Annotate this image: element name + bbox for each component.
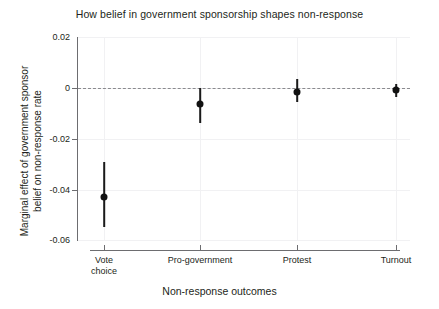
x-tick-vote-choice: [104, 245, 105, 251]
y-axis-title: Marginal effect of government sponsor be…: [18, 36, 44, 266]
chart-figure: How belief in government sponsorship sha…: [0, 0, 439, 309]
x-tick-protest: [297, 245, 298, 251]
x-tick-label-turnout: Turnout: [381, 255, 412, 266]
x-tick-label-pro-government: Pro-government: [168, 255, 233, 266]
gridline-cat-pro-government: [200, 37, 201, 240]
gridline-002: [78, 37, 410, 38]
plot-area: [78, 37, 410, 240]
x-tick-label-vote-choice: Vote choice: [91, 255, 117, 277]
y-axis-title-line2: belief on non-response rate: [32, 90, 43, 212]
x-tick-turnout: [396, 245, 397, 251]
gridline-neg004: [78, 190, 410, 191]
point-protest: [294, 89, 301, 96]
gridline-neg002: [78, 139, 410, 140]
x-tick-label-protest: Protest: [283, 255, 312, 266]
gridline-cat-protest: [297, 37, 298, 240]
point-turnout: [393, 87, 400, 94]
gridline-neg006: [78, 240, 410, 241]
gridline-cat-turnout: [396, 37, 397, 240]
zero-reference-line: [78, 88, 410, 89]
x-axis-spine: [90, 250, 400, 251]
x-axis-title: Non-response outcomes: [0, 285, 439, 297]
x-tick-pro-government: [200, 245, 201, 251]
y-axis-title-line1: Marginal effect of government sponsor: [19, 66, 30, 236]
point-vote-choice: [101, 194, 108, 201]
point-pro-government: [197, 100, 204, 107]
